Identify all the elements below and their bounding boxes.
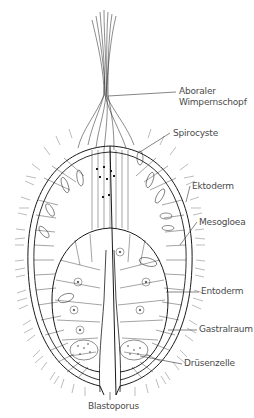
- label-mesogloea: Mesogloea: [199, 217, 245, 228]
- label-ektoderm: Ektoderm: [192, 181, 234, 192]
- label-aboraler-wimpernschopf: Aboraler Wimpernschopf: [179, 86, 247, 108]
- entoderm-cells: [55, 234, 165, 356]
- label-aboraler-line1: Aboraler: [179, 86, 247, 97]
- label-aboraler-line2: Wimpernschopf: [179, 97, 247, 108]
- gland-cells: [57, 256, 158, 360]
- spirocysts: [37, 151, 174, 239]
- label-gastralraum: Gastralraum: [199, 324, 253, 335]
- aboral-tuft: [78, 10, 134, 150]
- central-fibres: [92, 150, 128, 230]
- label-blastoporus: Blastoporus: [88, 401, 139, 412]
- planula-diagram: [0, 0, 254, 418]
- entoderm-boundary: [52, 228, 168, 372]
- label-spirocyste: Spirocyste: [173, 128, 218, 139]
- gastral-cavity: [99, 250, 120, 392]
- central-dots: [96, 166, 115, 198]
- label-entoderm: Entoderm: [201, 286, 243, 297]
- label-druesenzelle: Drüsenzelle: [184, 358, 235, 369]
